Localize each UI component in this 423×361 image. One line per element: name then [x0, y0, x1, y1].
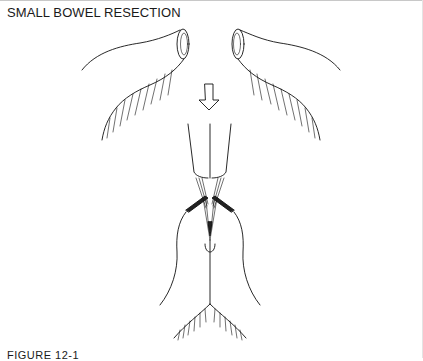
anastomosis: [160, 124, 260, 305]
figure-caption: FIGURE 12-1: [7, 349, 79, 361]
lower-mesentery: [174, 304, 246, 340]
down-arrow-icon: [199, 84, 219, 110]
right-bowel-segment: [232, 29, 340, 140]
left-bowel-segment: [82, 29, 189, 140]
